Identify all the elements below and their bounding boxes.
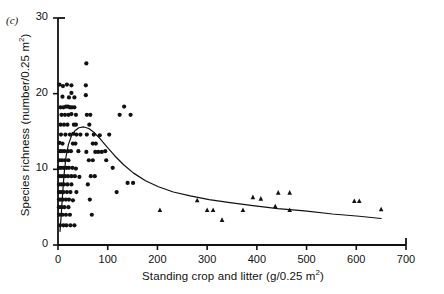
data-point-circle: [72, 223, 76, 227]
data-point-circle: [70, 166, 74, 170]
data-point-circle: [74, 190, 78, 194]
data-point-circle: [74, 166, 78, 170]
data-point-circle: [68, 223, 72, 227]
data-point-circle: [60, 95, 64, 99]
data-point-triangle: [276, 190, 281, 195]
data-point-circle: [68, 190, 72, 194]
data-point-circle: [98, 133, 102, 137]
data-point-circle: [63, 132, 67, 136]
data-point-circle: [72, 95, 76, 99]
data-point-circle: [115, 190, 119, 194]
data-point-circle: [59, 132, 63, 136]
data-point-circle: [131, 181, 135, 185]
data-point-circle: [65, 182, 69, 186]
data-point-circle: [69, 83, 73, 87]
data-point-triangle: [379, 207, 384, 212]
data-point-circle: [73, 142, 77, 146]
data-point-circle: [88, 113, 92, 117]
y-tick-label: 20: [22, 86, 48, 98]
data-point-triangle: [357, 198, 362, 203]
data-point-circle: [64, 223, 68, 227]
data-point-circle: [107, 132, 111, 136]
data-point-circle: [65, 82, 69, 86]
figure-panel: (c) Species richness (number/0.25 m2) St…: [0, 0, 444, 294]
data-point-circle: [84, 83, 88, 87]
data-point-circle: [69, 112, 73, 116]
data-point-circle: [87, 158, 91, 162]
data-point-circle: [73, 174, 77, 178]
data-point-triangle: [352, 198, 357, 203]
data-point-circle: [87, 123, 91, 127]
data-point-circle: [69, 149, 73, 153]
data-point-circle: [94, 142, 98, 146]
data-point-circle: [78, 132, 82, 136]
data-point-circle: [89, 174, 93, 178]
data-point-triangle: [287, 190, 292, 195]
data-point-circle: [61, 84, 65, 88]
data-point-triangle: [158, 207, 163, 212]
x-tick-label: 400: [237, 253, 277, 265]
data-point-circle: [65, 123, 69, 127]
data-point-circle: [69, 182, 73, 186]
data-point-circle: [100, 150, 104, 154]
data-point-circle: [92, 132, 96, 136]
fitted-curve: [60, 127, 381, 231]
data-point-circle: [86, 182, 90, 186]
data-point-circle: [104, 158, 108, 162]
x-tick-label: 300: [187, 253, 227, 265]
data-point-circle: [71, 198, 75, 202]
data-point-circle: [67, 95, 71, 99]
data-point-circle: [128, 113, 132, 117]
data-point-circle: [93, 174, 97, 178]
data-point-circle: [66, 205, 70, 209]
data-point-circle: [69, 91, 73, 95]
y-tick-label: 0: [22, 237, 48, 249]
data-point-circle: [74, 123, 78, 127]
x-tick-label: 700: [386, 253, 426, 265]
data-point-circle: [118, 113, 122, 117]
data-point-circle: [60, 142, 64, 146]
data-point-circle: [68, 132, 72, 136]
data-point-circle: [88, 198, 92, 202]
data-point-circle: [91, 158, 95, 162]
data-point-circle: [74, 113, 78, 117]
data-point-triangle: [205, 207, 210, 212]
data-point-circle: [122, 104, 126, 108]
data-point-circle: [84, 150, 88, 154]
x-tick-label: 200: [137, 253, 177, 265]
data-point-circle: [90, 213, 94, 217]
y-tick-label: 30: [22, 10, 48, 22]
data-point-circle: [103, 149, 107, 153]
data-point-triangle: [211, 207, 216, 212]
data-point-circle: [85, 132, 89, 136]
data-point-triangle: [220, 217, 225, 222]
data-point-triangle: [195, 198, 200, 203]
data-point-circle: [66, 158, 70, 162]
data-point-triangle: [273, 204, 278, 209]
data-point-triangle: [241, 207, 246, 212]
data-point-triangle: [251, 195, 256, 200]
data-point-circle: [62, 205, 66, 209]
x-tick-label: 0: [38, 253, 78, 265]
y-tick-label: 10: [22, 161, 48, 173]
data-point-circle: [68, 213, 72, 217]
data-point-circle: [67, 198, 71, 202]
x-tick-label: 500: [287, 253, 327, 265]
x-tick-label: 600: [336, 253, 376, 265]
data-point-circle: [84, 93, 88, 97]
x-tick-label: 100: [88, 253, 128, 265]
data-point-circle: [77, 175, 81, 179]
data-point-circle: [72, 105, 76, 109]
data-point-circle: [76, 149, 80, 153]
scatter-plot-svg: [0, 0, 444, 294]
data-point-circle: [126, 181, 130, 185]
data-point-circle: [64, 213, 68, 217]
data-point-circle: [111, 166, 115, 170]
data-point-triangle: [259, 196, 264, 201]
data-point-circle: [74, 132, 78, 136]
data-point-circle: [84, 61, 88, 65]
